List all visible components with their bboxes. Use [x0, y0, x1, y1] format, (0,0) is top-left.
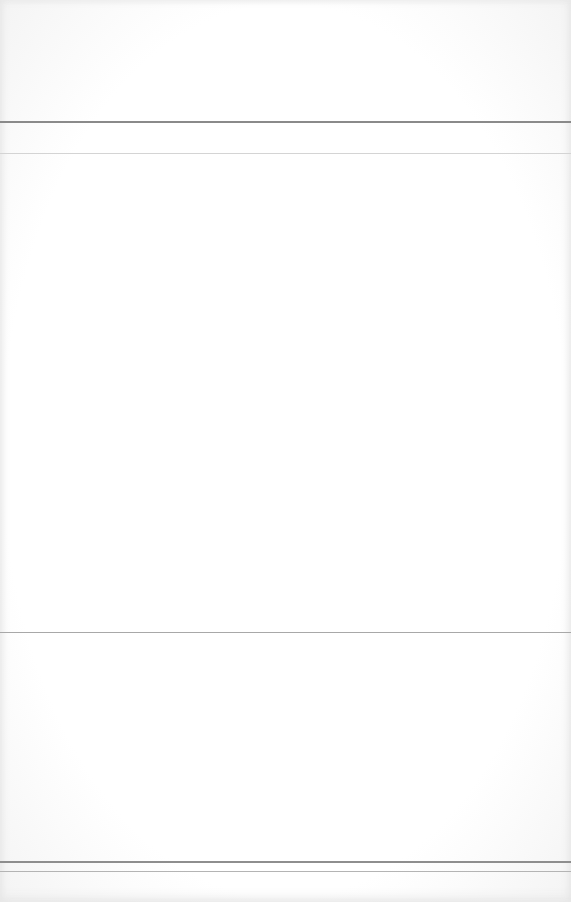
subheader-rule: [0, 153, 571, 154]
section-divider: [0, 632, 571, 633]
document-page: [0, 0, 571, 902]
footer-rule-secondary: [0, 871, 571, 872]
footer-rule: [0, 861, 571, 863]
header-rule: [0, 121, 571, 123]
